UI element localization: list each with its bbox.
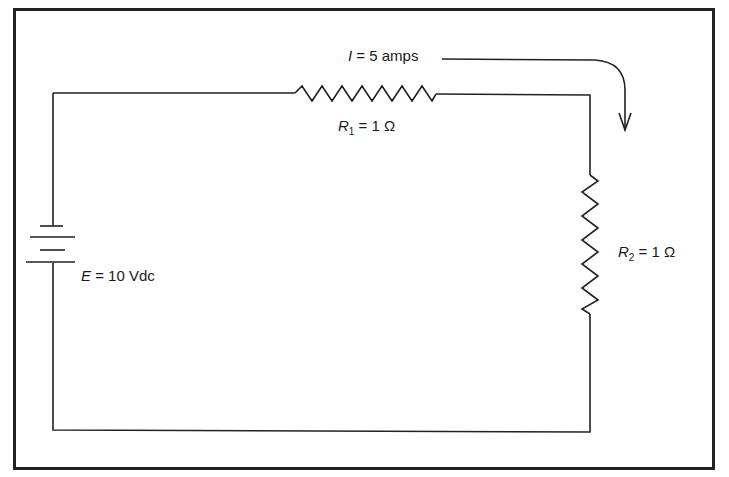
current-label: I = 5 amps bbox=[348, 47, 418, 64]
circuit-diagram bbox=[0, 0, 729, 477]
source-label: E = 10 Vdc bbox=[81, 267, 155, 284]
r1-label: R1 = 1 Ω bbox=[338, 117, 395, 137]
resistor-r2 bbox=[582, 175, 598, 314]
r2-label: R2 = 1 Ω bbox=[618, 243, 675, 263]
resistor-r1 bbox=[295, 86, 436, 101]
battery-icon bbox=[26, 225, 75, 262]
